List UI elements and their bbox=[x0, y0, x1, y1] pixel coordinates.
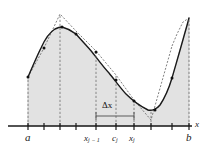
sample-point bbox=[171, 77, 174, 80]
sample-point bbox=[133, 100, 136, 103]
tick-label-a: a bbox=[25, 131, 31, 143]
tick-label-x-j-minus-1-sub: j − 1 bbox=[88, 137, 100, 143]
tick-label-x-j-sub: j bbox=[133, 137, 135, 143]
sample-point bbox=[27, 76, 30, 79]
tick-label-a-text: a bbox=[25, 131, 31, 143]
tick-label-c-j: cj bbox=[112, 133, 118, 143]
tick-label-c-j-sub: j bbox=[116, 137, 118, 143]
tick-label-x-j: xj bbox=[129, 133, 135, 143]
delta-x-text: Δx bbox=[102, 100, 112, 110]
delta-x-label: Δx bbox=[102, 100, 112, 110]
sample-point bbox=[75, 33, 78, 36]
tick-label-b-text: b bbox=[186, 131, 192, 143]
x-axis-label-text: x bbox=[195, 119, 199, 129]
sample-point bbox=[43, 47, 46, 50]
x-axis-label: x bbox=[195, 119, 199, 129]
sample-point bbox=[95, 51, 98, 54]
sample-point bbox=[154, 109, 157, 112]
riemann-sum-figure: Δx a xj − 1 cj xj b x bbox=[0, 0, 206, 158]
sample-point bbox=[61, 26, 64, 29]
tick-label-x-j-minus-1: xj − 1 bbox=[84, 133, 100, 143]
sample-point bbox=[115, 79, 118, 82]
tick-label-b: b bbox=[186, 131, 192, 143]
